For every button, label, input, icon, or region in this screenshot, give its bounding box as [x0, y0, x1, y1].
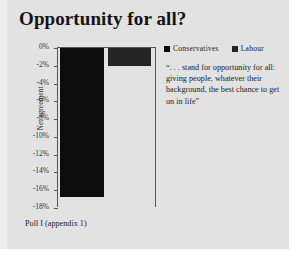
- y-axis-tick-label: -16%: [33, 184, 49, 193]
- y-axis-tick-mark: [54, 172, 58, 173]
- y-axis-tick-label: -14%: [33, 166, 49, 175]
- y-axis-tick-mark: [54, 119, 58, 120]
- y-axis-tick-mark: [54, 101, 58, 102]
- legend-item-labour[interactable]: Labour: [232, 44, 264, 53]
- y-axis-tick-label: -2%: [37, 60, 50, 69]
- plot-inner: [58, 48, 155, 207]
- y-axis-tick-label: -18%: [33, 202, 49, 211]
- legend-label: Conservatives: [173, 44, 219, 53]
- y-axis-tick-label: -12%: [33, 149, 49, 158]
- y-axis-tick-label: -4%: [37, 78, 50, 87]
- legend-swatch-icon: [164, 46, 170, 52]
- y-axis-title: Net agreement: [36, 59, 45, 159]
- chart-figure: Opportunity for all? Net agreement 0%-2%…: [0, 0, 289, 249]
- bar-conservatives[interactable]: [60, 48, 104, 197]
- legend-label: Labour: [241, 44, 264, 53]
- y-axis-tick-mark: [54, 137, 58, 138]
- plot-area: 0%-2%-4%-6%-8%-10%-12%-14%-16%-18%: [57, 47, 156, 207]
- quote-text: “. . . stand for opportunity for all: gi…: [166, 62, 288, 107]
- y-axis-tick-label: -10%: [33, 131, 49, 140]
- chart-legend: ConservativesLabour: [164, 44, 264, 53]
- bar-labour[interactable]: [108, 48, 152, 66]
- y-axis-tick-label: -8%: [37, 113, 50, 122]
- y-axis-tick-mark: [54, 84, 58, 85]
- legend-swatch-icon: [232, 46, 238, 52]
- source-note: Poll I (appendix 1): [25, 219, 87, 228]
- y-axis-tick-mark: [54, 48, 58, 49]
- chart-title: Opportunity for all?: [19, 8, 186, 30]
- legend-item-conservatives[interactable]: Conservatives: [164, 44, 219, 53]
- y-axis-tick-label: 0%: [39, 42, 49, 51]
- y-axis-tick-mark: [54, 66, 58, 67]
- y-axis-tick-mark: [54, 208, 58, 209]
- y-axis-tick-mark: [54, 155, 58, 156]
- y-axis-tick-label: -6%: [37, 95, 50, 104]
- y-axis-tick-mark: [54, 190, 58, 191]
